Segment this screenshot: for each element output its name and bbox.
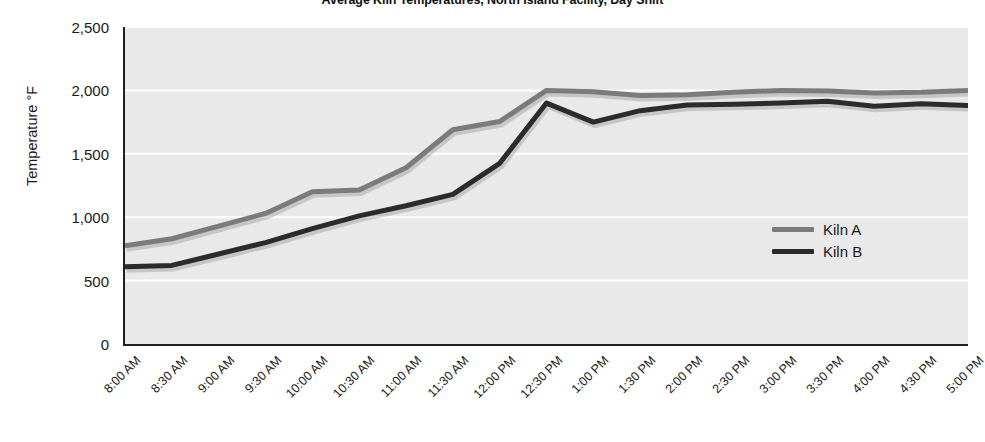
x-axis-tick-label: 9:00 AM <box>195 352 239 396</box>
x-axis-tick-label: 8:30 AM <box>148 352 192 396</box>
x-axis-tick: 5:00 PM <box>978 318 985 362</box>
y-axis-tick: 2,000 <box>52 82 116 99</box>
legend-item-label: Kiln B <box>823 243 862 260</box>
x-axis-tick-label: 4:30 PM <box>897 352 941 396</box>
x-axis-tick-label: 12:30 PM <box>517 352 566 401</box>
y-axis-tick: 1,000 <box>52 209 116 226</box>
legend-item[interactable]: Kiln A <box>772 218 892 240</box>
x-axis-tick-label: 10:30 AM <box>330 352 379 401</box>
chart-legend: Kiln AKiln B <box>772 218 892 262</box>
x-axis-tick-label: 4:00 PM <box>850 352 894 396</box>
chart-container: Average Kiln Temperatures, North Island … <box>0 0 985 442</box>
x-axis-tick-label: 3:00 PM <box>756 352 800 396</box>
chart-title: Average Kiln Temperatures, North Island … <box>0 0 985 7</box>
legend-color-swatch <box>772 249 814 254</box>
x-axis-tick-labels: 8:00 AM8:30 AM9:00 AM9:30 AM10:00 AM10:3… <box>123 344 966 442</box>
x-axis-tick-label: 1:30 PM <box>616 352 660 396</box>
x-axis-tick-label: 2:30 PM <box>709 352 753 396</box>
x-axis-tick-label: 2:00 PM <box>663 352 707 396</box>
y-axis-tick: 0 <box>52 336 116 353</box>
y-axis-tick: 2,500 <box>52 19 116 36</box>
legend-color-swatch <box>772 227 814 232</box>
y-axis-title: Temperature °F <box>24 41 40 231</box>
x-axis-tick-label: 5:00 PM <box>944 352 985 396</box>
y-axis-tick: 500 <box>52 272 116 289</box>
series-lines <box>125 27 968 344</box>
x-axis-tick-label: 11:30 AM <box>425 352 473 400</box>
legend-item[interactable]: Kiln B <box>772 240 892 262</box>
x-axis-tick-label: 10:00 AM <box>284 352 333 401</box>
legend-item-label: Kiln A <box>823 221 861 238</box>
x-axis-tick-label: 3:30 PM <box>803 352 847 396</box>
plot-area <box>123 27 968 346</box>
y-axis-tick: 1,500 <box>52 145 116 162</box>
x-axis-tick-label: 1:00 PM <box>569 352 613 396</box>
x-axis-tick-label: 11:00 AM <box>378 352 426 400</box>
x-axis-tick-label: 9:30 AM <box>242 352 286 396</box>
y-axis-tick-labels: 2,5002,0001,5001,0005000 <box>52 0 116 442</box>
x-axis-tick-label: 12:00 PM <box>470 352 519 401</box>
